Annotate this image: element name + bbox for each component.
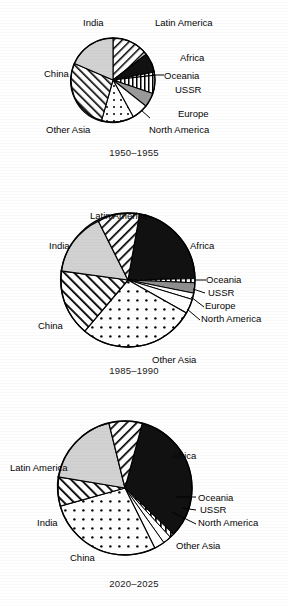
- label-north-america: North America: [149, 124, 209, 135]
- label-oceania: Oceania: [206, 274, 241, 285]
- label-ussr: USSR: [200, 504, 226, 515]
- label-africa: Africa: [180, 52, 204, 63]
- label-africa: Africa: [172, 450, 196, 461]
- pie-2020-slices: [57, 421, 192, 555]
- chart-figure-2020-2025: Africa Latin America India Oceania USSR …: [0, 400, 288, 600]
- caption-1985-1990: 1985–1990: [0, 365, 278, 376]
- label-europe: Europe: [205, 300, 236, 311]
- label-india: India: [49, 240, 70, 251]
- pie-chart-2020-2025: [0, 400, 288, 560]
- chart-figure-1950-1955: India Latin America Africa Oceania USSR …: [0, 0, 288, 172]
- chart-figure-1985-1990: Latin America India Africa Oceania USSR …: [0, 190, 288, 375]
- label-ussr: USSR: [208, 287, 234, 298]
- label-india: India: [83, 17, 104, 28]
- caption-1950-1955: 1950–1955: [0, 147, 278, 158]
- label-north-america: North America: [198, 517, 258, 528]
- label-ussr: USSR: [175, 84, 201, 95]
- pie-1950-slices: [71, 38, 155, 123]
- label-other-asia: Other Asia: [152, 354, 196, 365]
- label-india: India: [37, 517, 58, 528]
- label-latin-america: Latin America: [10, 462, 68, 473]
- label-china: China: [44, 68, 69, 79]
- label-oceania: Oceania: [164, 70, 199, 81]
- label-china: China: [38, 320, 63, 331]
- caption-2020-2025: 2020–2025: [0, 578, 278, 589]
- label-latin-america: Latin America: [90, 210, 148, 221]
- label-other-asia: Other Asia: [176, 540, 220, 551]
- label-oceania: Oceania: [198, 492, 233, 503]
- label-africa: Africa: [190, 240, 214, 251]
- label-europe: Europe: [178, 108, 209, 119]
- label-other-asia: Other Asia: [46, 124, 90, 135]
- label-latin-america: Latin America: [155, 17, 213, 28]
- pie-1985-slices: [61, 213, 195, 347]
- label-north-america: North America: [201, 313, 261, 324]
- label-china: China: [70, 552, 95, 563]
